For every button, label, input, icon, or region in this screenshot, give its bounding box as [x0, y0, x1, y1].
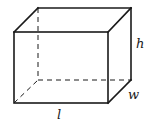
edge-top-left-depth — [14, 8, 38, 32]
height-label: h — [136, 36, 144, 51]
front-face — [14, 32, 108, 103]
edge-top-right-depth — [108, 8, 131, 32]
hidden-edge-bottom-left-depth — [14, 80, 38, 103]
visible-edges — [14, 8, 131, 103]
rectangular-prism-diagram: h w l — [0, 0, 148, 121]
length-label: l — [57, 107, 61, 121]
width-label: w — [128, 87, 139, 102]
hidden-edges — [14, 8, 131, 103]
